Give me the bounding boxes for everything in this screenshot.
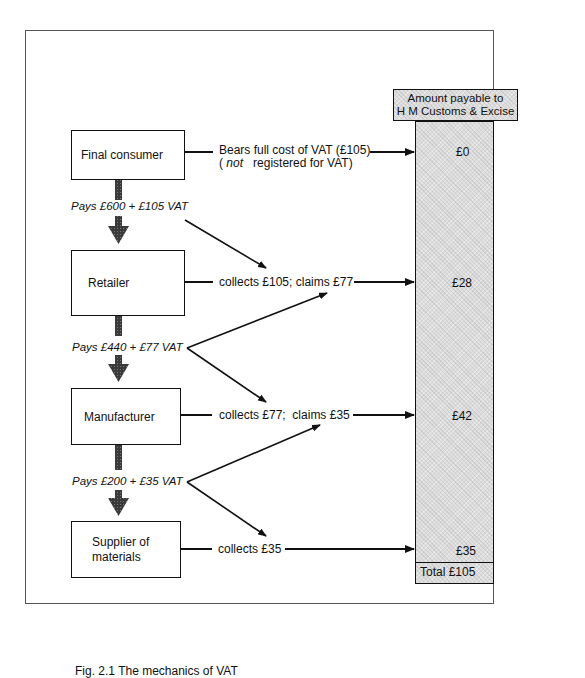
stage-label-line-1: Supplier of [92, 535, 149, 550]
stage-label: Retailer [88, 276, 129, 290]
amount-manufacturer: £42 [452, 409, 472, 423]
payment-label-retailer-to-manufacturer: Pays £440 + £77 VAT [72, 341, 183, 353]
stage-box-final-consumer: Final consumer [71, 130, 185, 180]
amount-supplier: £35 [456, 544, 476, 558]
stage-box-retailer: Retailer [71, 250, 185, 316]
payment-label-manufacturer-to-supplier: Pays £200 + £35 VAT [72, 475, 183, 487]
payment-label-consumer-to-retailer: Pays £600 + £105 VAT [71, 200, 188, 212]
stage-box-manufacturer: Manufacturer [71, 388, 181, 445]
action-note: ( not registered for VAT) [219, 157, 370, 170]
action-label-manufacturer: collects £77; claims £35 [219, 408, 350, 422]
column-header-line-2: H M Customs & Excise [394, 105, 517, 118]
stage-box-supplier-of-materials: Supplier of materials [71, 521, 181, 578]
amount-payable-column [415, 121, 494, 563]
note-rest: registered for VAT) [253, 156, 353, 170]
action-label-retailer: collects £105; claims £77 [219, 275, 353, 289]
stage-label: Final consumer [81, 148, 163, 162]
figure-caption: Fig. 2.1 The mechanics of VAT [75, 664, 238, 678]
column-header-line-1: Amount payable to [394, 92, 517, 105]
stage-label: Manufacturer [84, 410, 155, 424]
amount-retailer: £28 [452, 276, 472, 290]
action-label-supplier: collects £35 [218, 542, 281, 556]
note-emphasis: not [226, 156, 243, 170]
stage-label-line-2: materials [92, 550, 141, 565]
note-prefix: ( [219, 156, 223, 170]
column-header: Amount payable to H M Customs & Excise [393, 89, 518, 121]
amount-final-consumer: £0 [456, 145, 469, 159]
action-label-final-consumer: Bears full cost of VAT (£105) ( not regi… [219, 144, 370, 170]
total-amount: Total £105 [415, 562, 494, 584]
